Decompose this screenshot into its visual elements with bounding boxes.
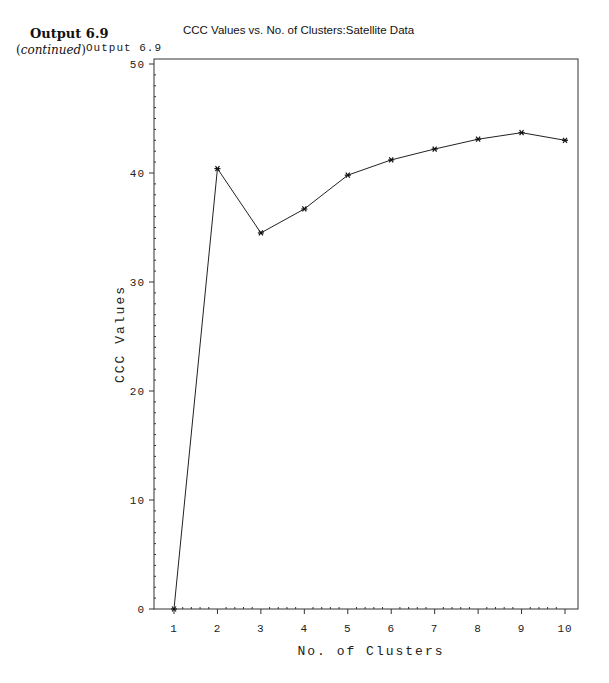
x-tick-label: 4	[301, 623, 309, 635]
x-tick-label: 5	[344, 623, 352, 635]
data-markers	[171, 130, 568, 611]
data-line	[174, 133, 565, 609]
x-tick-label: 3	[257, 623, 265, 635]
y-axis-label: CCC Values	[113, 285, 128, 383]
asterisk-marker	[475, 137, 481, 142]
x-tick-label: 10	[557, 623, 572, 635]
asterisk-marker	[345, 173, 351, 178]
asterisk-marker	[519, 130, 525, 135]
x-tick-label: 7	[431, 623, 439, 635]
x-axis: 12345678910	[170, 607, 572, 635]
y-tick-label: 50	[130, 59, 145, 71]
asterisk-marker	[432, 147, 438, 152]
y-axis: 01020304050	[130, 59, 156, 616]
x-tick-label: 1	[170, 623, 178, 635]
asterisk-marker	[562, 138, 568, 143]
x-tick-label: 2	[214, 623, 222, 635]
y-tick-label: 10	[130, 495, 145, 507]
line-chart: 01020304050 12345678910 CCC Values No. o…	[0, 0, 609, 683]
y-tick-label: 0	[137, 604, 145, 616]
y-tick-label: 20	[130, 386, 145, 398]
asterisk-marker	[388, 157, 394, 162]
x-tick-label: 9	[518, 623, 526, 635]
x-axis-label: No. of Clusters	[297, 644, 444, 659]
asterisk-marker	[301, 206, 307, 211]
y-tick-label: 40	[130, 168, 145, 180]
asterisk-marker	[258, 230, 264, 235]
plot-frame	[154, 59, 578, 609]
y-tick-label: 30	[130, 277, 145, 289]
x-tick-label: 6	[387, 623, 395, 635]
x-tick-label: 8	[474, 623, 482, 635]
